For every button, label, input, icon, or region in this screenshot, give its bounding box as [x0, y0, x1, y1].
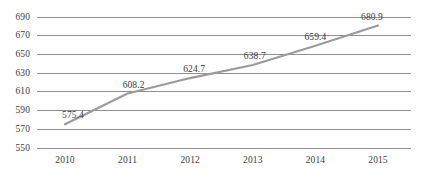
line-chart: 690670650630610590570550 201020112012201…	[0, 0, 424, 189]
data-point-label: 608.2	[112, 80, 156, 90]
y-axis-tick-label: 550	[0, 143, 30, 153]
x-axis-tick-label: 2014	[292, 155, 338, 165]
y-axis-tick-label: 650	[0, 49, 30, 59]
y-axis-tick-label: 570	[0, 124, 30, 134]
y-axis-tick-label: 590	[0, 105, 30, 115]
data-point-label: 638.7	[233, 51, 277, 61]
x-axis-tick-label: 2015	[355, 155, 401, 165]
data-point-label: 659.4	[293, 32, 337, 42]
x-axis-tick-label: 2010	[42, 155, 88, 165]
data-point-label: 575.4	[51, 110, 95, 120]
y-axis-tick-label: 670	[0, 30, 30, 40]
y-axis-tick-label: 630	[0, 68, 30, 78]
data-point-label: 624.7	[172, 64, 216, 74]
x-axis-tick-label: 2012	[167, 155, 213, 165]
y-axis-tick-label: 690	[0, 12, 30, 22]
data-point-label: 680.9	[350, 12, 394, 22]
gridline-group	[37, 17, 411, 148]
x-axis-tick-label: 2013	[230, 155, 276, 165]
y-axis-tick-label: 610	[0, 86, 30, 96]
x-axis-tick-label: 2011	[105, 155, 151, 165]
